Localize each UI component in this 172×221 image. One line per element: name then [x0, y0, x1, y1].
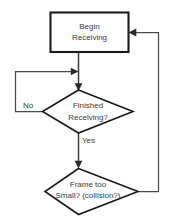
node-frame-too-small-line2: Small? (collision?)	[56, 191, 121, 200]
node-finished-receiving-line1: Finished	[73, 101, 103, 110]
edge-label-yes: Yes	[82, 136, 95, 145]
node-finished-receiving-line2: Receiving?	[68, 113, 108, 122]
node-begin-receiving: Begin Receiving	[51, 13, 129, 53]
node-begin-receiving-line1: Begin	[79, 22, 99, 31]
edge-label-no: No	[23, 101, 34, 110]
node-frame-too-small-line1: Frame too	[70, 180, 107, 189]
node-frame-too-small: Frame too Small? (collision?)	[45, 169, 138, 215]
flowchart-diagram: Begin Receiving Finished Receiving? Fram…	[0, 0, 172, 221]
node-begin-receiving-line2: Receiving	[72, 33, 107, 42]
node-finished-receiving: Finished Receiving?	[43, 90, 134, 133]
connector-feedback-loop	[129, 29, 159, 192]
